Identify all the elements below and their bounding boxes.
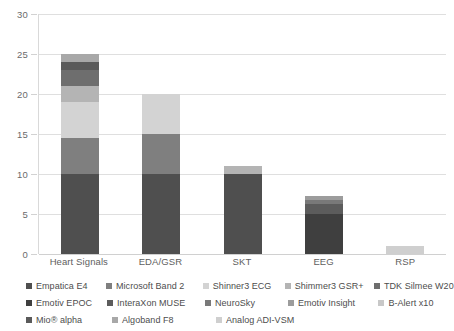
y-tick-label: 25 bbox=[17, 49, 28, 60]
y-tick-label: 5 bbox=[23, 209, 28, 220]
legend-item[interactable]: Algoband F8 bbox=[112, 315, 216, 325]
legend-swatch-icon bbox=[378, 300, 384, 306]
bar-segment[interactable] bbox=[61, 54, 99, 62]
bar-segment[interactable] bbox=[142, 94, 180, 134]
legend-label: NeuroSky bbox=[215, 298, 255, 308]
legend-item[interactable]: Emotiv EPOC bbox=[26, 298, 107, 308]
y-tick-label: 10 bbox=[17, 169, 28, 180]
y-tick-mark bbox=[31, 174, 37, 175]
legend-swatch-icon bbox=[26, 283, 32, 289]
legend-label: Shimmer3 GSR+ bbox=[295, 281, 364, 291]
legend-swatch-icon bbox=[106, 283, 112, 289]
bar-slot bbox=[120, 14, 201, 254]
y-tick-label: 15 bbox=[17, 129, 28, 140]
legend-swatch-icon bbox=[285, 283, 291, 289]
legend-label: Microsoft Band 2 bbox=[116, 281, 184, 291]
bar-segment[interactable] bbox=[224, 174, 262, 254]
bar-segment[interactable] bbox=[61, 102, 99, 138]
legend-label: B-Alert x10 bbox=[388, 298, 433, 308]
legend-label: Emotiv Insight bbox=[298, 298, 355, 308]
legend-item[interactable]: Emotiv Insight bbox=[288, 298, 378, 308]
stacked-bar[interactable] bbox=[305, 196, 343, 254]
y-tick-label: 0 bbox=[23, 249, 28, 260]
legend-item[interactable]: NeuroSky bbox=[205, 298, 288, 308]
legend-label: TDK Silmee W20 bbox=[384, 281, 454, 291]
bar-segment[interactable] bbox=[61, 138, 99, 174]
legend-swatch-icon bbox=[216, 317, 222, 323]
x-tick-label: SKT bbox=[201, 256, 283, 274]
bar-segment[interactable] bbox=[224, 166, 262, 174]
bar-segment[interactable] bbox=[142, 134, 180, 174]
bar-segment[interactable] bbox=[142, 174, 180, 254]
legend-item[interactable]: Shimmer3 GSR+ bbox=[285, 281, 374, 291]
legend-item[interactable]: Empatica E4 bbox=[26, 281, 106, 291]
x-tick-label: EEG bbox=[283, 256, 365, 274]
legend-label: Mio® alpha bbox=[36, 315, 82, 325]
legend-item[interactable]: Shinner3 ECG bbox=[203, 281, 285, 291]
legend-swatch-icon bbox=[112, 317, 118, 323]
plot-area: 051015202530 Heart SignalsEDA/GSRSKTEEGR… bbox=[0, 0, 450, 272]
legend-row: Empatica E4Microsoft Band 2Shinner3 ECGS… bbox=[0, 277, 450, 294]
y-tick-mark bbox=[31, 14, 37, 15]
bar-slot bbox=[39, 14, 120, 254]
legend-label: Empatica E4 bbox=[36, 281, 88, 291]
legend-item[interactable]: TDK Silmee W20 bbox=[374, 281, 450, 291]
stacked-bar[interactable] bbox=[224, 166, 262, 254]
y-tick-label: 30 bbox=[17, 9, 28, 20]
bar-slot bbox=[283, 14, 364, 254]
y-tick-mark bbox=[31, 54, 37, 55]
legend-swatch-icon bbox=[107, 300, 113, 306]
legend-label: Analog ADI-VSM bbox=[226, 315, 294, 325]
stacked-bar[interactable] bbox=[386, 246, 424, 254]
y-tick-mark bbox=[31, 94, 37, 95]
legend-item[interactable]: Mio® alpha bbox=[26, 315, 112, 325]
legend-row: Emotiv EPOCInteraXon MUSENeuroSkyEmotiv … bbox=[0, 294, 450, 311]
plot-grid bbox=[38, 14, 446, 254]
legend-label: Shinner3 ECG bbox=[213, 281, 272, 291]
legend-swatch-icon bbox=[26, 317, 32, 323]
legend-item[interactable]: Microsoft Band 2 bbox=[106, 281, 203, 291]
x-axis: Heart SignalsEDA/GSRSKTEEGRSP bbox=[38, 256, 446, 274]
legend-item[interactable]: InteraXon MUSE bbox=[107, 298, 205, 308]
bar-segment[interactable] bbox=[386, 246, 424, 254]
legend-item[interactable]: B-Alert x10 bbox=[378, 298, 450, 308]
legend-label: Algoband F8 bbox=[122, 315, 174, 325]
bars-layer bbox=[39, 14, 446, 254]
legend-label: Emotiv EPOC bbox=[36, 298, 92, 308]
x-tick-label: Heart Signals bbox=[38, 256, 120, 274]
stacked-bar[interactable] bbox=[142, 94, 180, 254]
bar-segment[interactable] bbox=[305, 214, 343, 254]
legend-row: Mio® alphaAlgoband F8Analog ADI-VSM bbox=[0, 311, 450, 328]
y-tick-label: 20 bbox=[17, 89, 28, 100]
bar-segment[interactable] bbox=[61, 62, 99, 70]
legend-swatch-icon bbox=[374, 283, 380, 289]
bar-segment[interactable] bbox=[61, 86, 99, 102]
legend-label: InteraXon MUSE bbox=[117, 298, 185, 308]
stacked-bar[interactable] bbox=[61, 54, 99, 254]
legend-swatch-icon bbox=[288, 300, 294, 306]
bar-segment[interactable] bbox=[61, 70, 99, 86]
legend-swatch-icon bbox=[203, 283, 209, 289]
x-tick-label: RSP bbox=[364, 256, 446, 274]
bar-slot bbox=[365, 14, 446, 254]
bar-segment[interactable] bbox=[305, 204, 343, 214]
y-tick-mark bbox=[31, 214, 37, 215]
y-tick-mark bbox=[31, 254, 37, 255]
legend-swatch-icon bbox=[205, 300, 211, 306]
y-tick-mark bbox=[31, 134, 37, 135]
x-tick-label: EDA/GSR bbox=[120, 256, 202, 274]
y-axis: 051015202530 bbox=[0, 0, 38, 272]
chart-legend: Empatica E4Microsoft Band 2Shinner3 ECGS… bbox=[0, 274, 450, 331]
bar-segment[interactable] bbox=[61, 174, 99, 254]
gridline bbox=[39, 254, 446, 255]
legend-swatch-icon bbox=[26, 300, 32, 306]
bar-slot bbox=[202, 14, 283, 254]
legend-item[interactable]: Analog ADI-VSM bbox=[216, 315, 304, 325]
